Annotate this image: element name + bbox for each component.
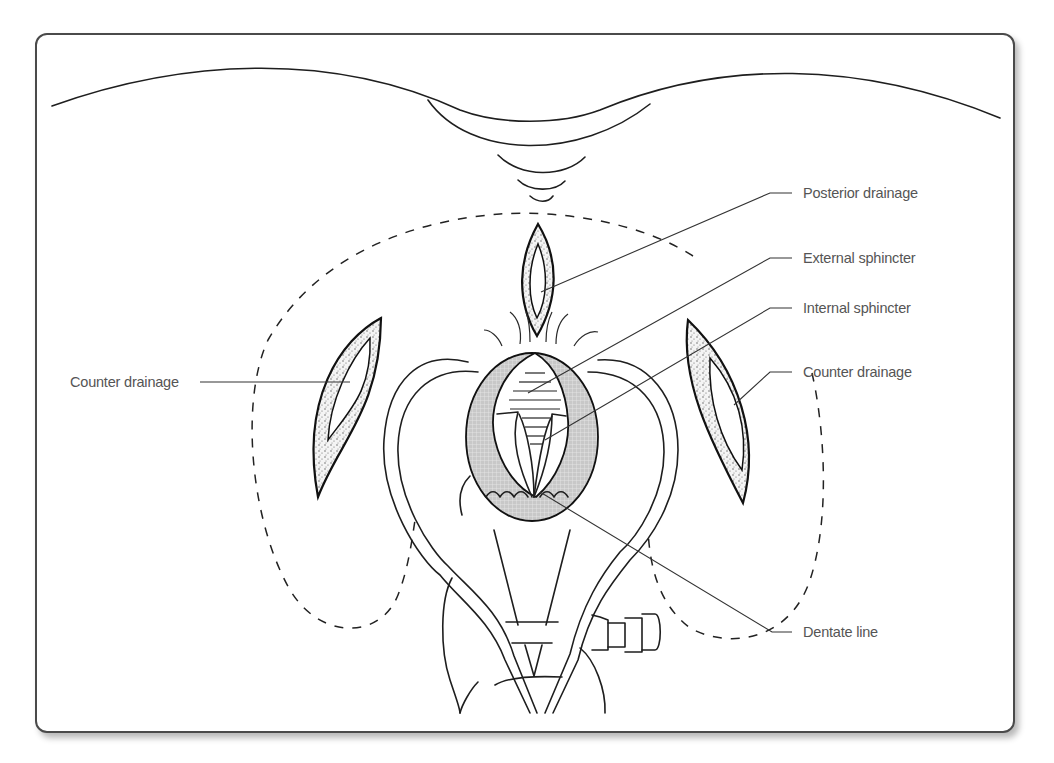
left-counter-drainage-wound	[314, 318, 381, 497]
label-external-sphincter: External sphincter	[803, 249, 915, 267]
label-dentate-line: Dentate line	[803, 623, 878, 641]
label-counter-drainage-right: Counter drainage	[803, 363, 912, 381]
label-internal-sphincter: Internal sphincter	[803, 299, 911, 317]
right-counter-drainage-wound	[687, 320, 749, 503]
label-posterior-drainage: Posterior drainage	[803, 184, 918, 202]
anal-canal	[466, 353, 598, 521]
label-counter-drainage-left: Counter drainage	[70, 373, 179, 391]
gluteal-contour	[52, 68, 1000, 201]
